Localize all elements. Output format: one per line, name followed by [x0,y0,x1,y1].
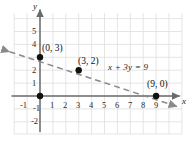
x-axis-label: x [182,97,186,106]
x-tick-8: 8 [141,101,145,110]
x-tick-6: 6 [115,101,119,110]
y-tick-1: 1 [32,79,36,88]
equation-label: x + 3y = 9 [108,63,148,72]
point-3-2 [76,67,82,73]
x-tick-4: 4 [89,101,93,110]
point-9-0 [153,93,159,99]
point-label-3-2: (3, 2) [78,57,99,67]
point-0-3 [37,54,43,60]
graph-figure: y x 5 4 2 1 -1 -2 -1 1 2 3 4 5 6 7 8 9 (… [0,0,192,147]
point-origin [37,93,43,99]
x-tick-7: 7 [128,101,132,110]
y-tick-neg1: -1 [33,104,40,113]
x-tick-3: 3 [76,101,80,110]
x-tick-neg1: -1 [20,101,27,110]
x-tick-5: 5 [102,101,106,110]
x-tick-2: 2 [63,101,67,110]
y-tick-5: 5 [32,27,36,36]
y-tick-4: 4 [32,40,36,49]
y-tick-2: 2 [32,66,36,75]
y-tick-neg2: -2 [31,117,38,126]
y-axis-label: y [33,2,37,11]
x-tick-9: 9 [154,101,158,110]
axes [12,10,180,133]
point-label-9-0: (9, 0) [147,80,168,90]
x-tick-1: 1 [50,101,54,110]
point-label-0-3: (0, 3) [42,44,63,54]
coordinate-plane-svg [0,0,192,147]
